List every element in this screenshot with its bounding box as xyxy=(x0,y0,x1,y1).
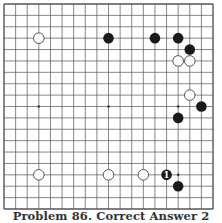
white-stone xyxy=(138,170,149,181)
black-stone xyxy=(196,101,207,112)
problem-caption: Problem 86. Correct Answer 2 xyxy=(0,209,222,223)
black-stone-numbered: 1 xyxy=(161,170,172,181)
go-board: 1 xyxy=(0,0,222,212)
black-stone-disc xyxy=(184,44,195,55)
white-stone xyxy=(34,33,45,44)
white-stone-disc xyxy=(138,170,149,181)
white-stone xyxy=(34,170,45,181)
black-stone-disc xyxy=(173,181,184,192)
black-stone-disc xyxy=(173,33,184,44)
star-point xyxy=(177,174,180,177)
white-stone-disc xyxy=(184,56,195,67)
black-stone-disc xyxy=(173,113,184,124)
black-stone xyxy=(173,113,184,124)
black-stone xyxy=(173,33,184,44)
black-stone-disc xyxy=(196,101,207,112)
star-point xyxy=(107,105,110,108)
white-stone-disc xyxy=(184,90,195,101)
white-stone xyxy=(103,170,114,181)
black-stone-disc xyxy=(150,33,161,44)
white-stone-disc xyxy=(173,56,184,67)
black-stone xyxy=(103,33,114,44)
white-stone xyxy=(173,56,184,67)
white-stone-disc xyxy=(103,170,114,181)
white-stone-disc xyxy=(34,170,45,181)
star-point xyxy=(38,105,41,108)
black-stone xyxy=(173,181,184,192)
black-stone xyxy=(150,33,161,44)
white-stone xyxy=(184,90,195,101)
white-stone xyxy=(184,56,195,67)
move-number-label: 1 xyxy=(164,170,170,180)
black-stone-disc xyxy=(103,33,114,44)
star-point xyxy=(177,105,180,108)
white-stone-disc xyxy=(34,33,45,44)
black-stone xyxy=(184,44,195,55)
